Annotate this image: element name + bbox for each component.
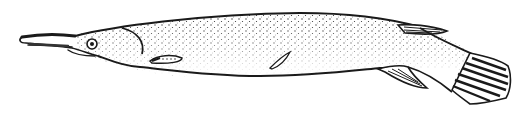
anal-fin — [378, 66, 427, 88]
eye-icon — [87, 39, 97, 49]
fish-drawing — [0, 0, 524, 125]
fish-illustration: Elongated fish illustration (stippled li… — [0, 0, 524, 125]
